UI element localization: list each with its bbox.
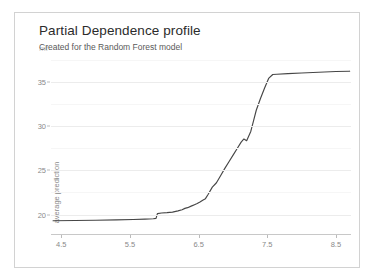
chart-subtitle: Created for the Random Forest model <box>39 42 182 52</box>
page-title: Partial Dependence profile <box>39 23 201 38</box>
y-tick-mark <box>47 126 50 127</box>
y-tick-mark <box>47 81 50 82</box>
x-tick-label: 7.5 <box>262 240 272 249</box>
gridline-minor <box>51 192 351 193</box>
gridline-minor <box>51 60 351 61</box>
gridline-major <box>51 215 351 216</box>
x-tick-mark <box>130 235 131 238</box>
x-tick-label: 8.5 <box>331 240 341 249</box>
gridline-minor <box>51 148 351 149</box>
gridline-major <box>51 170 351 171</box>
series-line <box>53 71 350 221</box>
x-tick-label: 6.5 <box>193 240 203 249</box>
gridline-major <box>51 82 351 83</box>
y-tick-label: 20 <box>38 210 46 219</box>
y-tick-mark <box>47 170 50 171</box>
x-tick-label: 4.5 <box>56 240 66 249</box>
chart-card: Partial Dependence profile mf Created fo… <box>14 12 360 268</box>
x-tick-mark <box>336 235 337 238</box>
y-tick-label: 35 <box>38 77 46 86</box>
x-axis: 4.55.56.57.58.5 <box>51 235 351 255</box>
y-tick-label: 30 <box>38 122 46 131</box>
gridline-major <box>51 126 351 127</box>
y-tick-mark <box>47 214 50 215</box>
x-tick-label: 5.5 <box>125 240 135 249</box>
y-tick-label: 25 <box>38 166 46 175</box>
pdp-curve <box>51 59 351 234</box>
x-tick-mark <box>199 235 200 238</box>
x-tick-mark <box>61 235 62 238</box>
x-tick-mark <box>267 235 268 238</box>
gridline-minor <box>51 104 351 105</box>
plot-area: average prediction 20253035 <box>51 59 351 234</box>
